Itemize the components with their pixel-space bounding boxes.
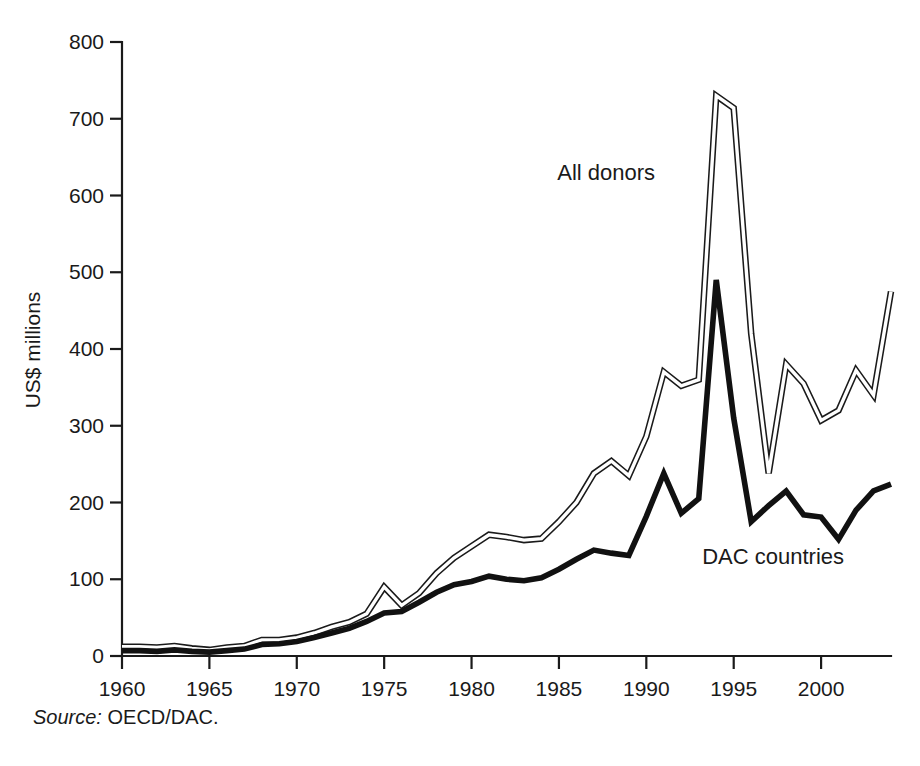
x-tick-label: 1980 <box>448 677 495 700</box>
y-tick-label: 600 <box>69 184 104 207</box>
y-tick-label: 300 <box>69 414 104 437</box>
y-tick-label: 500 <box>69 260 104 283</box>
x-tick-label: 1995 <box>710 677 757 700</box>
y-tick-label: 100 <box>69 567 104 590</box>
y-axis-title: US$ millions <box>21 292 44 409</box>
x-tick-label: 1990 <box>623 677 670 700</box>
y-tick-label: 400 <box>69 337 104 360</box>
x-tick-label: 1960 <box>99 677 146 700</box>
x-tick-label: 1965 <box>186 677 233 700</box>
all-donors-label: All donors <box>557 160 655 185</box>
x-tick-label: 2000 <box>798 677 845 700</box>
source-note-label: Source: <box>33 706 102 728</box>
y-tick-label: 0 <box>92 644 104 667</box>
source-note: Source: OECD/DAC. <box>33 706 219 729</box>
y-axis: 0100200300400500600700800 US$ millions <box>21 30 122 667</box>
chart-figure: 0100200300400500600700800 US$ millions 1… <box>0 0 920 766</box>
dac-countries-label: DAC countries <box>702 544 844 569</box>
x-axis: 196019651970197519801985199019952000 <box>99 656 891 700</box>
x-tick-label: 1970 <box>273 677 320 700</box>
y-tick-label: 800 <box>69 30 104 53</box>
x-tick-label: 1975 <box>361 677 408 700</box>
y-tick-label: 700 <box>69 107 104 130</box>
series-dac-countries <box>122 280 891 652</box>
source-note-value: OECD/DAC. <box>108 706 219 728</box>
line-chart: 0100200300400500600700800 US$ millions 1… <box>0 0 920 700</box>
series-line-solid <box>122 280 891 652</box>
y-axis-ticks: 0100200300400500600700800 <box>69 30 122 667</box>
x-axis-ticks: 196019651970197519801985199019952000 <box>99 656 845 700</box>
x-tick-label: 1985 <box>536 677 583 700</box>
y-tick-label: 200 <box>69 491 104 514</box>
